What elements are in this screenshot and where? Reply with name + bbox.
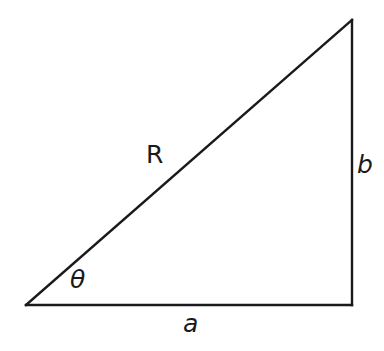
vertical-leg-label: b (357, 152, 373, 177)
hypotenuse-line (26, 20, 352, 305)
horizontal-leg-label: a (183, 311, 198, 336)
angle-theta-label: θ (70, 267, 85, 292)
hypotenuse-label: R (146, 142, 163, 167)
figure-canvas: R b a θ (0, 0, 384, 351)
right-triangle-shape (0, 0, 384, 351)
